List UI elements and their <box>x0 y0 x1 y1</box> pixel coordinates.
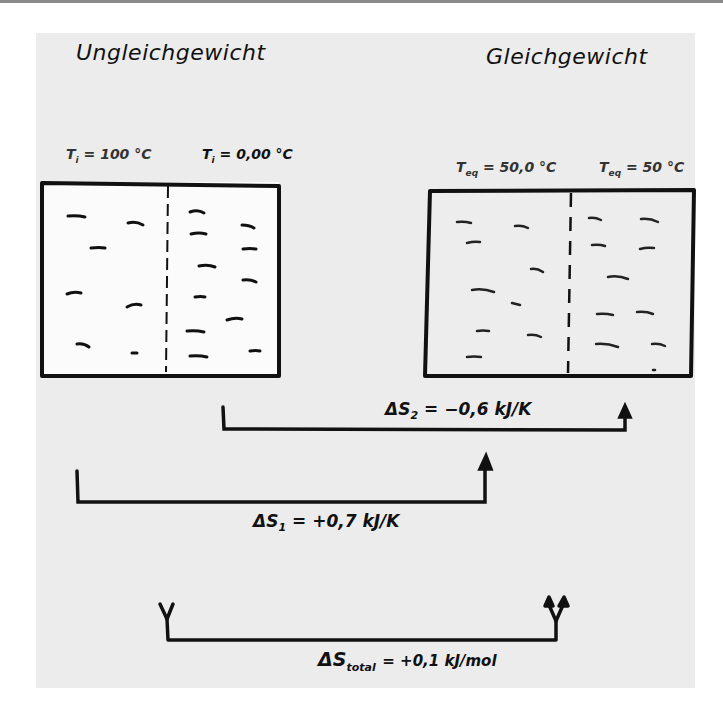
diagram-drawing <box>0 0 723 718</box>
temp-subscript: i <box>76 155 79 165</box>
delta-value: = +0,7 kJ/K <box>292 511 399 531</box>
temp-symbol: T <box>599 159 609 175</box>
arrow-delta-s-total <box>160 597 568 640</box>
delta-symbol: ΔS <box>385 399 410 419</box>
temp-left-hot: Ti = 100 °C <box>66 147 152 165</box>
delta-subscript: 1 <box>278 521 286 534</box>
temp-value: = 0,00 °C <box>220 146 293 162</box>
temp-symbol: T <box>456 159 466 175</box>
delta-value: = +0,1 kJ/mol <box>382 652 496 670</box>
temp-value: = 100 °C <box>84 146 152 162</box>
delta-subscript: 2 <box>410 409 418 422</box>
temp-left-cold: Ti = 0,00 °C <box>202 147 293 165</box>
label-delta-s2: ΔS2 = −0,6 kJ/K <box>385 401 531 421</box>
label-delta-s-total: ΔStotal = +0,1 kJ/mol <box>318 650 497 673</box>
delta-symbol: ΔS <box>253 511 278 531</box>
temp-subscript: eq <box>609 168 622 178</box>
heading-nonequilibrium: Ungleichgewicht <box>76 42 266 64</box>
delta-value: = −0,6 kJ/K <box>424 399 531 419</box>
temp-subscript: i <box>212 155 215 165</box>
temp-value: = 50 °C <box>626 159 684 175</box>
arrow-delta-s1 <box>77 456 491 502</box>
right-box <box>425 189 694 377</box>
label-delta-s1: ΔS1 = +0,7 kJ/K <box>253 513 399 533</box>
temp-right-eq-left: Teq = 50,0 °C <box>456 160 556 178</box>
heading-equilibrium: Gleichgewicht <box>486 46 648 68</box>
temp-value: = 50,0 °C <box>483 159 556 175</box>
delta-symbol: ΔS <box>318 648 346 670</box>
temp-right-eq-right: Teq = 50 °C <box>599 160 684 178</box>
left-box <box>42 182 279 376</box>
delta-subscript: total <box>346 661 375 674</box>
temp-subscript: eq <box>466 168 479 178</box>
temp-symbol: T <box>202 146 212 162</box>
temp-symbol: T <box>66 146 76 162</box>
